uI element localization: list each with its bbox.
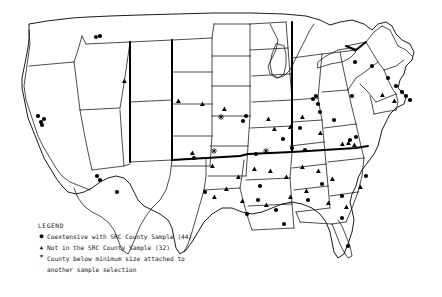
sample-markers (36, 34, 412, 248)
legend-entry-coextensive: ● Coextensive with SRC County Sample (44… (36, 231, 246, 242)
markers-not-in-sample (122, 79, 397, 209)
legend-entry-label: Not in the SRC County Sample (32) (47, 242, 170, 253)
figure-canvas: LEGEND ● Coextensive with SRC County Sam… (0, 0, 442, 297)
state-borders-east (290, 50, 364, 224)
legend-entry-below-minimum: * County below minimum size attached to (36, 253, 246, 264)
state-borders-midwest (246, 22, 294, 230)
legend: LEGEND ● Coextensive with SRC County Sam… (36, 221, 246, 275)
state-borders-plains (172, 24, 250, 176)
markers-coextensive (36, 34, 412, 248)
legend-entry-not-in-sample: ▲ Not in the SRC County Sample (32) (36, 242, 246, 253)
legend-entry-label: County below minimum size attached to (47, 253, 185, 264)
legend-entry-label: Coextensive with SRC County Sample (44) (47, 231, 192, 242)
filled-circle-icon: ● (36, 231, 47, 242)
florida-outline (332, 220, 352, 258)
census-region-boundaries (130, 22, 368, 162)
asterisk-icon: * (36, 253, 47, 263)
state-borders-northeast (346, 26, 412, 114)
legend-title: LEGEND (36, 221, 246, 231)
filled-triangle-icon: ▲ (36, 242, 47, 253)
legend-entry-label-continued: another sample selection (36, 264, 246, 275)
markers-below-minimum (211, 114, 269, 154)
